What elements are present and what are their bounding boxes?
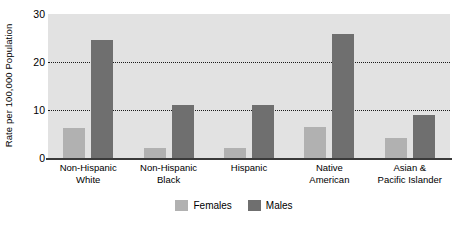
x-axis-label: NativeAmerican [289,162,369,185]
bar [385,138,407,158]
y-tick-label: 20 [23,57,45,67]
legend-label: Males [266,200,293,211]
x-axis-label: Asian &Pacific Islander [370,162,450,185]
bar-chart: Rate per 100,000 Population 0102030 Non-… [0,0,468,229]
legend-swatch [175,200,188,211]
x-axis-label: Non-HispanicWhite [48,162,128,185]
x-axis-label-line: Hispanic [209,162,289,174]
x-axis-label-line: Black [128,174,208,186]
x-axis-label-line: Pacific Islander [370,174,450,186]
bar [91,40,113,158]
y-tick-label: 30 [23,9,45,19]
bar [413,115,435,158]
bar-group [63,14,113,158]
bar [252,105,274,158]
x-axis-label: Hispanic [209,162,289,174]
bar [172,105,194,158]
y-tick-label: 0 [23,153,45,163]
y-tick-label: 10 [23,105,45,115]
bar-group [224,14,274,158]
x-axis-line [46,158,452,160]
bar [144,148,166,158]
bar [63,128,85,158]
bar-group [304,14,354,158]
y-axis-title-text: Rate per 100,000 Population [4,23,15,147]
legend-entry: Males [248,200,293,211]
x-axis-label-line: Native [289,162,369,174]
bar-group [144,14,194,158]
x-axis-label-line: American [289,174,369,186]
bar [304,127,326,158]
legend-label: Females [193,200,231,211]
x-axis-label-line: Non-Hispanic [48,162,128,174]
y-axis-title: Rate per 100,000 Population [0,0,18,170]
bar [332,34,354,158]
bar-group [385,14,435,158]
legend-entry: Females [175,200,231,211]
legend: FemalesMales [0,200,468,211]
y-axis-tick-labels: 0102030 [18,0,45,229]
x-axis-category-labels: Non-HispanicWhiteNon-HispanicBlackHispan… [48,162,450,192]
x-axis-label: Non-HispanicBlack [128,162,208,185]
x-axis-label-line: White [48,174,128,186]
legend-swatch [248,200,261,211]
x-axis-label-line: Asian & [370,162,450,174]
bar [224,148,246,158]
x-axis-label-line: Non-Hispanic [128,162,208,174]
plot-area [48,14,450,158]
